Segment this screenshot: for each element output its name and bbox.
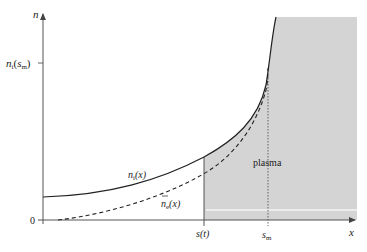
origin-label: 0 [30,215,35,226]
plasma-label: plasma [253,157,282,168]
density-diagram: n x 0 ni(sm) s(t) sm ni(x) ne(x) plasma [0,0,367,252]
x-tick-label-sm: sm [262,229,272,242]
plasma-region [204,17,357,220]
x-tick-label-st: s(t) [196,228,210,240]
electron-density-label: ne(x) [161,198,181,211]
ion-density-label: ni(x) [128,169,147,182]
y-axis-label: n [33,8,39,20]
y-tick-label: ni(sm) [6,57,31,71]
x-axis-label: x [348,226,354,238]
